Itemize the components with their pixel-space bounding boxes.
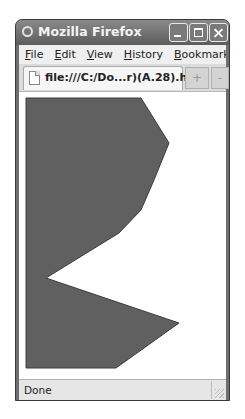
browser-window: Mozilla Firefox File Edit View History B… xyxy=(15,19,230,401)
minimize-button[interactable] xyxy=(169,23,188,42)
menu-bar: File Edit View History Bookmarks Tools xyxy=(19,45,226,64)
firefox-icon xyxy=(22,26,33,37)
tab-label: file:///C:/Do...r)(A.28).html xyxy=(45,71,208,84)
tab-active[interactable]: file:///C:/Do...r)(A.28).html xyxy=(23,66,183,90)
maximize-button[interactable] xyxy=(189,23,208,42)
menu-view[interactable]: View xyxy=(87,48,113,61)
new-tab-button[interactable]: + xyxy=(185,67,209,89)
gray-polygon xyxy=(26,98,179,368)
polygon-canvas xyxy=(19,92,228,379)
document-icon xyxy=(29,71,40,85)
status-text: Done xyxy=(24,384,52,396)
status-separator xyxy=(211,381,212,399)
tab-bar: file:///C:/Do...r)(A.28).html + - xyxy=(19,64,226,92)
menu-bookmarks[interactable]: Bookmarks xyxy=(174,48,226,61)
list-tabs-button[interactable]: - xyxy=(211,67,229,89)
status-bar: Done xyxy=(19,379,226,400)
menu-file[interactable]: File xyxy=(25,48,43,61)
close-button[interactable] xyxy=(209,23,228,42)
page-content xyxy=(19,92,226,379)
resize-grip-icon[interactable] xyxy=(215,389,224,398)
menu-history[interactable]: History xyxy=(124,48,163,61)
title-bar[interactable]: Mozilla Firefox xyxy=(16,20,229,45)
window-title: Mozilla Firefox xyxy=(38,24,142,39)
menu-edit[interactable]: Edit xyxy=(54,48,75,61)
